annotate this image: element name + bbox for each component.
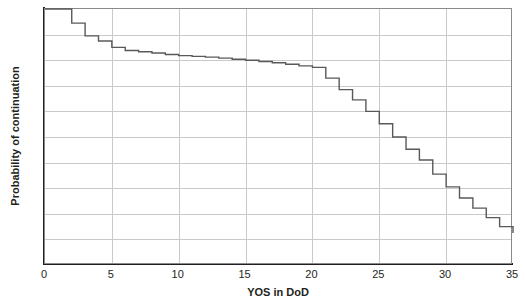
- x-tick-label: 15: [238, 268, 250, 280]
- x-tick-label: 30: [439, 268, 451, 280]
- x-axis-title: YOS in DoD: [44, 286, 512, 298]
- x-tick-label: 20: [305, 268, 317, 280]
- y-axis-title: Probability of continuation: [8, 8, 22, 264]
- continuation-step-series: [45, 9, 513, 265]
- x-tick-label: 35: [506, 268, 518, 280]
- continuation-probability-chart: Probability of continuation YOS in DoD 0…: [0, 0, 525, 306]
- x-tick-label: 0: [41, 268, 47, 280]
- plot-area: [44, 8, 512, 264]
- x-tick-label: 25: [372, 268, 384, 280]
- x-tick-label: 5: [108, 268, 114, 280]
- x-tick-label: 10: [172, 268, 184, 280]
